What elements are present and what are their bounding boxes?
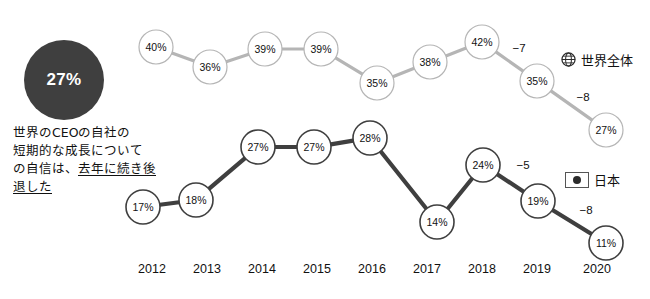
- legend-item-japan: 日本: [565, 170, 620, 189]
- world-line-segment: [226, 54, 249, 61]
- world-line-segment: [446, 48, 466, 56]
- japan-flag-icon: [565, 172, 589, 188]
- x-axis-year-label: 2014: [248, 262, 276, 276]
- summary-highlight-circle: 27%: [24, 40, 104, 120]
- world-line-segment: [496, 52, 523, 71]
- world-line-segment: [393, 68, 414, 76]
- japan-line-segment: [209, 158, 245, 189]
- globe-icon: [561, 52, 576, 67]
- world-line-segment: [336, 58, 363, 74]
- legend-label-japan: 日本: [594, 170, 620, 189]
- japan-point-label: 18%: [185, 194, 206, 206]
- japan-point-label: 17%: [132, 201, 153, 213]
- x-axis-year-label: 2016: [358, 262, 386, 276]
- japan-line-segment: [497, 174, 524, 191]
- summary-caption-line-2: 短期的な成長について: [13, 143, 143, 158]
- legend-item-world: 世界全体: [561, 50, 633, 69]
- japan-point-label: 24%: [472, 159, 493, 171]
- delta-annotation: −8: [576, 91, 589, 103]
- japan-line-segment: [160, 202, 179, 205]
- summary-highlight-value: 27%: [47, 70, 82, 90]
- x-axis-year-label: 2018: [468, 262, 496, 276]
- world-point-label: 36%: [199, 61, 220, 73]
- world-point-label: 38%: [419, 56, 440, 68]
- world-point-label: 39%: [310, 43, 331, 55]
- summary-caption-line-3: の自信は、: [13, 161, 78, 176]
- japan-point-label: 14%: [426, 216, 447, 228]
- world-line-segment: [172, 53, 194, 61]
- japan-point-label: 28%: [359, 132, 380, 144]
- x-axis-year-label: 2013: [193, 262, 221, 276]
- delta-annotation: −8: [579, 204, 592, 216]
- japan-point-label: 19%: [527, 195, 548, 207]
- world-point-label: 35%: [366, 77, 387, 89]
- world-point-label: 40%: [145, 41, 166, 53]
- legend-label-world: 世界全体: [581, 50, 633, 69]
- japan-point-label: 27%: [247, 141, 268, 153]
- delta-annotation: −7: [512, 42, 525, 54]
- delta-annotation: −5: [516, 159, 529, 171]
- x-axis-year-label: 2020: [583, 262, 611, 276]
- world-point-label: 39%: [254, 43, 275, 55]
- japan-line-segment: [448, 178, 473, 209]
- confidence-trend-chart: 27% 世界のCEOの自社の 短期的な成長について の自信は、去年に続き後退した…: [0, 0, 650, 299]
- japan-point-label: 11%: [596, 237, 616, 249]
- x-axis-year-label: 2019: [523, 262, 551, 276]
- x-axis-year-label: 2012: [138, 262, 166, 276]
- world-point-label: 35%: [526, 75, 547, 87]
- world-point-label: 42%: [471, 36, 492, 48]
- summary-caption: 世界のCEOの自社の 短期的な成長について の自信は、去年に続き後退した: [13, 124, 158, 197]
- x-axis-year-label: 2017: [413, 262, 441, 276]
- summary-caption-line-1: 世界のCEOの自社の: [13, 125, 130, 140]
- x-axis-year-label: 2015: [303, 262, 331, 276]
- world-point-label: 27%: [595, 124, 616, 136]
- japan-line-segment: [331, 141, 353, 145]
- japan-point-label: 27%: [303, 141, 324, 153]
- japan-line-segment: [381, 151, 427, 208]
